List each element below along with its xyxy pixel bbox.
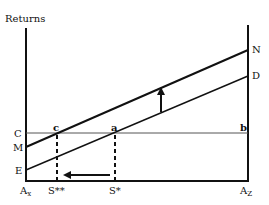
point-b-label: b	[240, 122, 247, 133]
label-n-level: N	[252, 44, 261, 55]
upper-returns-line	[26, 50, 248, 147]
label-d-level: D	[252, 70, 260, 81]
point-c-label: c	[53, 122, 59, 133]
label-ax: Ax	[19, 185, 31, 198]
y-axis-label: Returns	[5, 13, 45, 24]
label-c-level: C	[14, 128, 22, 139]
returns-diagram: Returns C M E N D c a b Ax S*	[0, 0, 269, 205]
label-az: AZ	[239, 185, 252, 198]
lower-returns-line	[26, 76, 248, 170]
label-m-level: M	[13, 142, 23, 153]
label-s-star: S*	[109, 185, 121, 196]
point-a-label: a	[111, 122, 118, 133]
label-e-level: E	[15, 165, 22, 176]
label-s-double-star: S**	[48, 185, 65, 196]
